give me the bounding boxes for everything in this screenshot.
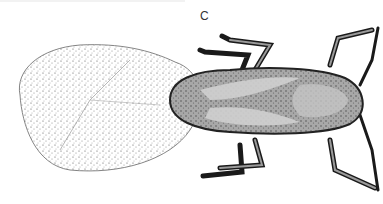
insect-illustration [0,0,383,204]
body [170,68,363,134]
